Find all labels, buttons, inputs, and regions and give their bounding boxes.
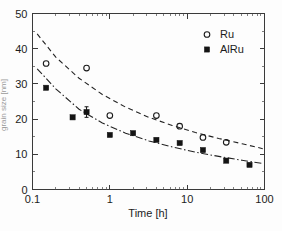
figure-container: 0.1110100 01020304050 Time [h] grain siz… [0, 0, 282, 231]
legend-marker-ru [204, 32, 210, 38]
data-point-alru [84, 109, 89, 114]
data-point-alru [154, 137, 159, 142]
data-point-ru [43, 61, 49, 67]
data-point-alru [131, 131, 136, 136]
y-axis-tick-labels: 01020304050 [15, 8, 27, 196]
data-point-alru [177, 140, 182, 145]
x-axis-label: Time [h] [128, 207, 167, 219]
y-axis-label: grain size [nm] [0, 79, 8, 131]
data-point-alru [107, 132, 112, 137]
data-point-ru [200, 135, 206, 141]
x-tick-label: 1 [107, 193, 113, 205]
data-point-alru [200, 147, 205, 152]
y-tick-label: 20 [15, 113, 27, 125]
y-tick-label: 30 [15, 78, 27, 90]
data-point-ru [154, 113, 160, 119]
data-point-ru [84, 65, 90, 71]
x-tick-label: 10 [181, 193, 193, 205]
x-axis-tick-labels: 0.1110100 [25, 193, 274, 205]
data-point-alru [70, 115, 75, 120]
legend-label-ru: Ru [220, 28, 234, 40]
legend-marker-alru [204, 47, 209, 52]
legend-label-alru: AlRu [220, 43, 244, 55]
legend: RuAlRu [204, 28, 244, 55]
data-points [43, 61, 252, 168]
x-tick-label: 100 [255, 193, 273, 205]
y-tick-label: 40 [15, 43, 27, 55]
y-tick-label: 0 [21, 184, 27, 196]
y-tick-label: 10 [15, 148, 27, 160]
data-point-alru [44, 85, 49, 90]
data-point-alru [224, 158, 229, 163]
scatter-chart: 0.1110100 01020304050 Time [h] grain siz… [0, 0, 282, 231]
data-point-alru [247, 162, 252, 167]
data-point-ru [107, 113, 113, 119]
y-tick-label: 50 [15, 8, 27, 20]
